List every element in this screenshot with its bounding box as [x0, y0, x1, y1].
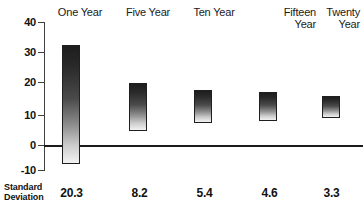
y-axis-tick-40: [38, 22, 45, 23]
y-axis-label-0: 0: [30, 140, 36, 151]
bar-ten-year: [194, 90, 212, 123]
y-axis-tick-30: [38, 52, 45, 53]
standard-deviation-label-line2: Deviation: [4, 192, 44, 202]
standard-deviation-value-fifteen-year: 4.6: [247, 186, 292, 200]
bar-one-year: [62, 45, 80, 164]
standard-deviation-value-one-year: 20.3: [49, 186, 94, 200]
column-header-five-year: Five Year: [110, 6, 186, 18]
standard-deviation-value-ten-year: 5.4: [182, 186, 227, 200]
standard-deviation-value-twenty-year: 3.3: [309, 186, 354, 200]
bar-twenty-year: [322, 96, 340, 118]
y-axis-spine: [44, 22, 45, 170]
bar-fifteen-year: [259, 92, 277, 122]
y-axis-label-neg10: -10: [21, 165, 36, 176]
bar-range-chart: One Year Five Year Ten Year Fifteen Year…: [0, 0, 363, 210]
column-header-one-year: One Year: [42, 6, 118, 18]
bar-five-year: [129, 83, 147, 130]
standard-deviation-value-five-year: 8.2: [117, 186, 162, 200]
y-axis-label-20: 20: [24, 77, 36, 88]
column-header-twenty-year: Twenty Year: [300, 6, 360, 30]
y-axis-tick-10: [38, 115, 45, 116]
y-axis-tick-neg10: [38, 170, 45, 171]
standard-deviation-label-line1: Standard: [4, 182, 42, 192]
y-axis-label-10: 10: [24, 110, 36, 121]
y-axis-label-30: 30: [24, 47, 36, 58]
y-axis-tick-20: [38, 82, 45, 83]
zero-baseline: [44, 145, 363, 147]
y-axis-label-40: 40: [24, 17, 36, 28]
